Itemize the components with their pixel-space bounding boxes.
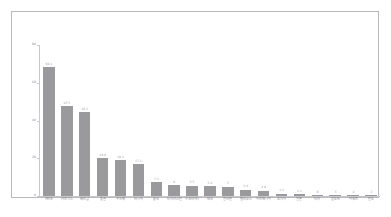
bar-slot: 7.3 — [147, 45, 165, 196]
bar-slot: .4 — [344, 45, 362, 196]
y-axis-tick-mark — [37, 196, 39, 197]
bar-slot: 17.1 — [129, 45, 147, 196]
bar[interactable]: 19.2 — [115, 160, 126, 196]
bar-value-label: 5.4 — [208, 182, 213, 185]
bar[interactable]: 2.9 — [258, 191, 269, 196]
bar-value-label: 1.1 — [297, 190, 302, 193]
bar-value-label: 5.5 — [190, 181, 195, 184]
bar[interactable]: 3.4 — [240, 190, 251, 196]
x-axis-tick-label: 벨라루스 — [237, 198, 255, 201]
x-axis-tick-label: 필리핀 — [219, 198, 237, 201]
bar[interactable]: 68.1 — [43, 67, 54, 196]
bar-slot: 19.9 — [94, 45, 112, 196]
x-axis-tick-label: 베트남 — [76, 198, 94, 201]
x-axis-tick-label: 타지키스탄 — [165, 198, 183, 201]
bar-slot: .6 — [308, 45, 326, 196]
bar-value-label: .3 — [370, 191, 373, 194]
bar-slot: 5.4 — [201, 45, 219, 196]
bar[interactable]: 1.1 — [294, 194, 305, 196]
x-axis-tick-label: 우즈벡 — [112, 198, 130, 201]
x-axis-tick-label: 키르기스 — [58, 198, 76, 201]
bar[interactable]: 5 — [222, 187, 233, 196]
chart-frame: 020406080 68.147.544.319.919.217.17.365.… — [11, 11, 379, 198]
bar[interactable]: 1.3 — [276, 194, 287, 196]
bar-value-label: .5 — [334, 191, 337, 194]
bar-value-label: 5 — [227, 182, 229, 185]
x-axis-tick-label: 터키 — [308, 198, 326, 201]
chart-figure: 020406080 68.147.544.319.919.217.17.365.… — [0, 0, 391, 217]
y-axis-tick-label: 0 — [12, 194, 36, 197]
x-axis-tick-label: 조지아 — [273, 198, 291, 201]
y-axis-tick-mark — [37, 121, 39, 122]
bar[interactable]: 6 — [168, 185, 179, 196]
y-axis-tick-label: 80 — [12, 43, 36, 46]
bar-slot: .5 — [326, 45, 344, 196]
bar[interactable]: .4 — [347, 195, 358, 196]
x-axis-tick-label: 아르메니아 — [255, 198, 273, 201]
x-axis-tick-label: 몽골 — [94, 198, 112, 201]
bar[interactable]: 7.3 — [151, 182, 162, 196]
y-axis-tick-mark — [37, 158, 39, 159]
x-axis-tick-label: 아제르 — [344, 198, 362, 201]
y-axis-tick-mark — [37, 45, 39, 46]
bar-value-label: 19.2 — [117, 156, 124, 159]
bar-slot: 1.1 — [290, 45, 308, 196]
bar[interactable]: 5.4 — [204, 186, 215, 196]
bar-value-label: 6 — [173, 181, 175, 184]
bar-slot: 19.2 — [112, 45, 130, 196]
y-axis-tick-label: 20 — [12, 156, 36, 159]
bar-value-label: 3.4 — [243, 185, 248, 188]
bar-slot: 2.9 — [255, 45, 273, 196]
bar-slot: 44.3 — [76, 45, 94, 196]
bar-value-label: 47.5 — [63, 102, 70, 105]
bar[interactable]: .3 — [365, 195, 376, 196]
x-axis-tick-label: 태국 — [201, 198, 219, 201]
bar-slot: 6 — [165, 45, 183, 196]
bar[interactable]: 47.5 — [61, 106, 72, 196]
bar[interactable]: 19.9 — [97, 158, 108, 196]
bar-slot: 5.5 — [183, 45, 201, 196]
bar-value-label: 19.9 — [99, 154, 106, 157]
bar-value-label: 44.3 — [81, 108, 88, 111]
bar-value-label: 2.9 — [261, 186, 266, 189]
y-axis-tick-mark — [37, 83, 39, 84]
x-axis-tick-label: 카자흐 — [40, 198, 58, 201]
bar-value-label: 68.1 — [46, 63, 53, 66]
bar-slot: .3 — [362, 45, 380, 196]
bar[interactable]: .6 — [312, 195, 323, 196]
x-axis-tick-label: 우크라이나 — [183, 198, 201, 201]
x-axis-tick-label: 중국 — [147, 198, 165, 201]
bar[interactable]: 44.3 — [79, 112, 90, 196]
y-axis-tick-label: 60 — [12, 81, 36, 84]
bar-slot: 5 — [219, 45, 237, 196]
bar-value-label: .4 — [352, 191, 355, 194]
x-axis-tick-label: 일본 — [290, 198, 308, 201]
bar[interactable]: 5.5 — [186, 186, 197, 196]
bar[interactable]: 17.1 — [133, 164, 144, 196]
x-axis-label-group: 카자흐키르기스베트남몽골우즈벡러시아중국타지키스탄우크라이나태국필리핀벨라루스아… — [40, 198, 380, 201]
bar[interactable]: .5 — [329, 195, 340, 196]
bar-slot: 3.4 — [237, 45, 255, 196]
bar-slot: 47.5 — [58, 45, 76, 196]
bar-value-label: 17.1 — [135, 160, 142, 163]
bar-series: 68.147.544.319.919.217.17.365.55.453.42.… — [40, 45, 380, 196]
x-axis-tick-label: 러시아 — [129, 198, 147, 201]
bar-value-label: .6 — [316, 191, 319, 194]
bar-value-label: 1.3 — [279, 189, 284, 192]
bar-value-label: 7.3 — [154, 178, 159, 181]
y-axis-tick-label: 40 — [12, 119, 36, 122]
x-axis-tick-label: 몰도바 — [326, 198, 344, 201]
bar-slot: 68.1 — [40, 45, 58, 196]
x-axis-tick-label: 인도 — [362, 198, 380, 201]
bar-slot: 1.3 — [273, 45, 291, 196]
